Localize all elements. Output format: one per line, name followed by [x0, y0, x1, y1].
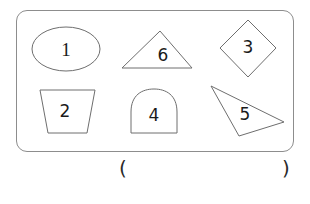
shape-label-3: 3: [240, 39, 256, 56]
answer-close-paren: ): [282, 158, 290, 178]
answer-open-paren: (: [119, 158, 127, 178]
shape-label-1: 1: [58, 40, 74, 59]
shape-label-5: 5: [237, 106, 253, 123]
worksheet-canvas: 1 6 3 2 4 5 ( ): [0, 0, 310, 204]
shape-label-2: 2: [57, 103, 73, 120]
shape-figures-layer: [0, 0, 310, 204]
shape-label-6: 6: [155, 47, 171, 64]
shape-label-4: 4: [146, 107, 162, 124]
